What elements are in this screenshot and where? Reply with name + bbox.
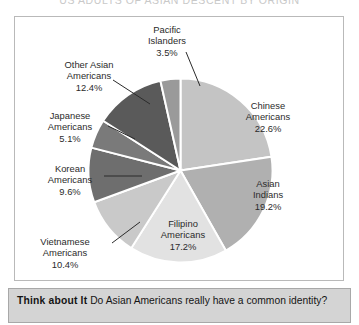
slice-percent: 17.2% (143, 241, 223, 252)
slice-percent: 3.5% (131, 47, 203, 58)
slice-name-line1: Filipino (143, 218, 223, 229)
slice-label-vietnamese-americans: Vietnamese Americans 10.4% (22, 236, 108, 270)
slice-percent: 12.4% (50, 82, 128, 93)
slice-label-other-asian-americans: Other Asian Americans 12.4% (50, 59, 128, 93)
slice-name-line2: Americans (143, 229, 223, 240)
slice-name-line2: Indians (233, 189, 303, 200)
caption-text: Do Asian Americans really have a common … (90, 295, 327, 306)
slice-name-line1: Japanese (32, 110, 108, 121)
slice-percent: 5.1% (32, 133, 108, 144)
slice-label-japanese-americans: Japanese Americans 5.1% (32, 110, 108, 144)
slice-label-asian-indians: Asian Indians 19.2% (233, 178, 303, 212)
slice-label-chinese-americans: Chinese Americans 22.6% (229, 100, 307, 134)
slice-label-filipino-americans: Filipino Americans 17.2% (143, 218, 223, 252)
caption-lead: Think about It (17, 295, 87, 306)
chart-heading: US ADULTS OF ASIAN DESCENT BY ORIGIN (0, 0, 359, 6)
slice-name-line1: Other Asian (50, 59, 128, 70)
pie-chart-figure: US ADULTS OF ASIAN DESCENT BY ORIGIN Pac… (0, 0, 359, 325)
slice-label-korean-americans: Korean Americans 9.6% (34, 163, 106, 197)
slice-name-line2: Americans (34, 174, 106, 185)
slice-name-line2: Americans (229, 111, 307, 122)
slice-name-line1: Asian (233, 178, 303, 189)
slice-name-line2: Islanders (131, 35, 203, 46)
slice-percent: 19.2% (233, 201, 303, 212)
slice-name-line1: Vietnamese (22, 236, 108, 247)
slice-label-pacific-islanders: Pacific Islanders 3.5% (131, 24, 203, 58)
slice-percent: 22.6% (229, 123, 307, 134)
slice-name-line1: Korean (34, 163, 106, 174)
slice-name-line2: Americans (50, 70, 128, 81)
think-about-it-caption: Think about It Do Asian Americans really… (8, 288, 351, 323)
slice-percent: 9.6% (34, 186, 106, 197)
slice-percent: 10.4% (22, 259, 108, 270)
slice-name-line2: Americans (22, 247, 108, 258)
slice-name-line1: Pacific (131, 24, 203, 35)
slice-name-line2: Americans (32, 121, 108, 132)
slice-name-line1: Chinese (229, 100, 307, 111)
